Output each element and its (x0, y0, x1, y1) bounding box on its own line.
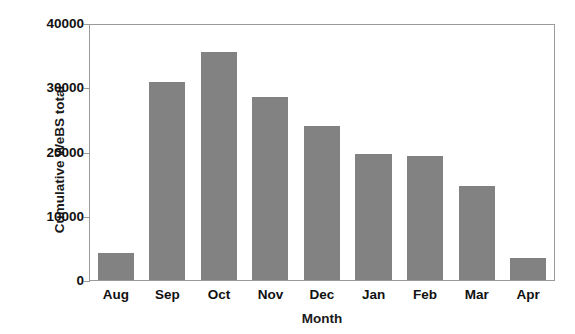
x-axis-tick-label-jan: Jan (348, 288, 400, 302)
x-axis-tick-label-dec: Dec (296, 288, 348, 302)
bar-slot (245, 25, 297, 280)
bar-slot (348, 25, 400, 280)
bar-slot (399, 25, 451, 280)
x-axis-tick-label-oct: Oct (193, 288, 245, 302)
bar-mar[interactable] (459, 186, 495, 280)
y-axis-tick-label: 30000 (8, 81, 84, 95)
x-axis-tick-label-sep: Sep (142, 288, 194, 302)
y-axis-tick-label-group: 010000200003000040000 (8, 0, 84, 334)
x-axis-tick-label-apr: Apr (502, 288, 554, 302)
y-axis-tick-label: 40000 (8, 17, 84, 31)
bar-slot (296, 25, 348, 280)
bar-dec[interactable] (304, 126, 340, 280)
bar-slot (193, 25, 245, 280)
bar-slot (142, 25, 194, 280)
bars-group (90, 25, 554, 280)
bar-nov[interactable] (252, 97, 288, 280)
y-axis-tick-mark (84, 88, 90, 89)
y-axis-tick-label: 0 (8, 274, 84, 288)
y-axis-tick-mark (84, 217, 90, 218)
bar-slot (90, 25, 142, 280)
bar-jan[interactable] (355, 154, 391, 280)
bar-aug[interactable] (98, 253, 134, 280)
plot-area (89, 24, 555, 281)
y-axis-tick-mark (84, 281, 90, 282)
y-axis-tick-mark (84, 153, 90, 154)
bar-slot (451, 25, 503, 280)
bar-chart-figure: Cumulative WeBS total 010000200003000040… (0, 0, 575, 334)
x-axis-tick-label-nov: Nov (245, 288, 297, 302)
x-axis-tick-label-mar: Mar (451, 288, 503, 302)
y-axis-tick-label: 10000 (8, 210, 84, 224)
bar-slot (502, 25, 554, 280)
bar-oct[interactable] (201, 52, 237, 280)
bar-apr[interactable] (510, 258, 546, 280)
y-axis-tick-label: 20000 (8, 146, 84, 160)
x-axis-tick-label-feb: Feb (399, 288, 451, 302)
x-axis-tick-label-group: AugSepOctNovDecJanFebMarApr (90, 288, 554, 308)
x-axis-tick-label-aug: Aug (90, 288, 142, 302)
x-axis-title: Month (89, 311, 555, 326)
bar-feb[interactable] (407, 156, 443, 280)
y-axis-tick-mark (84, 24, 90, 25)
bar-sep[interactable] (149, 82, 185, 280)
